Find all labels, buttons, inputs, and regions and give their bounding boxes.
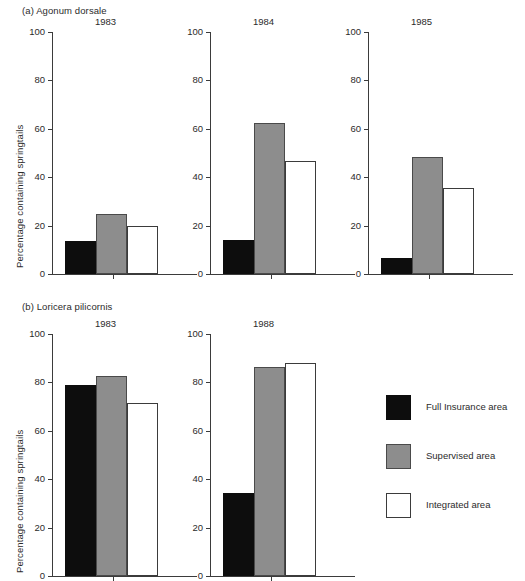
panel-a-1983: 1983 100 80 60 40 20 0 bbox=[14, 16, 197, 278]
panel-b-1988: 1988 100 80 60 40 20 0 bbox=[172, 318, 355, 580]
y-tick-label: 20 bbox=[192, 522, 203, 533]
legend-label: Integrated area bbox=[426, 499, 490, 510]
y-tick-0: 0 bbox=[206, 274, 210, 275]
y-tick-label: 80 bbox=[350, 74, 361, 85]
y-tick-label: 40 bbox=[192, 473, 203, 484]
panel-a-1985: 1985 100 80 60 40 20 0 bbox=[330, 16, 513, 278]
panel-a-1984: 1984 100 80 60 40 20 0 bbox=[172, 16, 355, 278]
group-caption-a: (a) Agonum dorsale bbox=[22, 5, 107, 16]
bar-integrated bbox=[127, 226, 158, 274]
y-axis-line bbox=[210, 334, 211, 576]
bar-supervised bbox=[254, 367, 285, 576]
y-tick-60: 60 bbox=[48, 129, 52, 130]
x-axis-tick-mid bbox=[113, 274, 114, 279]
y-tick-80: 80 bbox=[48, 382, 52, 383]
bar-supervised bbox=[96, 214, 127, 275]
y-tick-80: 80 bbox=[364, 80, 368, 81]
legend-swatch-grey-icon bbox=[386, 444, 411, 469]
y-tick-0: 0 bbox=[48, 576, 52, 577]
y-tick-label: 60 bbox=[350, 123, 361, 134]
bar-supervised bbox=[96, 376, 127, 576]
x-axis-tick-mid bbox=[271, 576, 272, 581]
y-tick-label: 20 bbox=[34, 522, 45, 533]
y-tick-100: 100 bbox=[48, 334, 52, 335]
y-tick-label: 0 bbox=[198, 570, 203, 581]
y-tick-label: 20 bbox=[192, 220, 203, 231]
y-tick-0: 0 bbox=[364, 274, 368, 275]
x-axis-line bbox=[210, 576, 355, 577]
y-tick-20: 20 bbox=[364, 226, 368, 227]
y-tick-label: 100 bbox=[187, 26, 203, 37]
x-axis-tick-mid bbox=[429, 274, 430, 279]
y-tick-40: 40 bbox=[206, 177, 210, 178]
bar-full-insurance bbox=[65, 385, 96, 576]
y-tick-label: 20 bbox=[34, 220, 45, 231]
y-tick-label: 0 bbox=[40, 268, 45, 279]
y-tick-0: 0 bbox=[206, 576, 210, 577]
plot-area: 100 80 60 40 20 0 bbox=[210, 334, 341, 576]
y-tick-label: 0 bbox=[356, 268, 361, 279]
y-tick-80: 80 bbox=[206, 80, 210, 81]
legend-swatch-black-icon bbox=[386, 395, 411, 420]
y-tick-label: 100 bbox=[187, 328, 203, 339]
y-tick-label: 60 bbox=[192, 425, 203, 436]
y-tick-40: 40 bbox=[206, 479, 210, 480]
plot-area: 100 80 60 40 20 0 bbox=[52, 32, 183, 274]
y-axis-line bbox=[52, 32, 53, 274]
y-tick-60: 60 bbox=[364, 129, 368, 130]
y-tick-label: 100 bbox=[345, 26, 361, 37]
bar-full-insurance bbox=[381, 258, 412, 274]
bar-integrated bbox=[285, 161, 316, 274]
group-caption-b: (b) Loricera pilicornis bbox=[22, 301, 112, 312]
plot-area: 100 80 60 40 20 0 bbox=[368, 32, 499, 274]
plot-area: 100 80 60 40 20 0 bbox=[210, 32, 341, 274]
y-tick-40: 40 bbox=[364, 177, 368, 178]
y-tick-label: 0 bbox=[40, 570, 45, 581]
y-tick-20: 20 bbox=[48, 226, 52, 227]
x-axis-tick-mid bbox=[113, 576, 114, 581]
y-axis-line bbox=[210, 32, 211, 274]
legend-swatch-white-icon bbox=[386, 493, 411, 518]
y-tick-label: 100 bbox=[29, 26, 45, 37]
y-tick-20: 20 bbox=[206, 528, 210, 529]
y-tick-label: 80 bbox=[34, 376, 45, 387]
y-tick-label: 80 bbox=[34, 74, 45, 85]
bar-full-insurance bbox=[223, 240, 254, 274]
panel-b-1983: 1983 100 80 60 40 20 0 bbox=[14, 318, 197, 580]
bar-full-insurance bbox=[223, 493, 254, 576]
y-tick-label: 40 bbox=[192, 171, 203, 182]
legend-label: Supervised area bbox=[426, 450, 495, 461]
y-axis-line bbox=[368, 32, 369, 274]
y-tick-label: 80 bbox=[192, 376, 203, 387]
y-tick-60: 60 bbox=[48, 431, 52, 432]
bar-integrated bbox=[443, 188, 474, 274]
y-tick-label: 60 bbox=[34, 425, 45, 436]
y-tick-label: 40 bbox=[34, 171, 45, 182]
bar-full-insurance bbox=[65, 241, 96, 274]
y-tick-100: 100 bbox=[364, 32, 368, 33]
y-tick-80: 80 bbox=[206, 382, 210, 383]
bar-supervised bbox=[254, 123, 285, 274]
y-tick-40: 40 bbox=[48, 177, 52, 178]
bar-integrated bbox=[127, 403, 158, 576]
y-tick-0: 0 bbox=[48, 274, 52, 275]
legend-label: Full Insurance area bbox=[426, 401, 507, 412]
y-tick-label: 40 bbox=[34, 473, 45, 484]
y-tick-label: 40 bbox=[350, 171, 361, 182]
y-tick-60: 60 bbox=[206, 431, 210, 432]
y-tick-label: 80 bbox=[192, 74, 203, 85]
x-axis-line bbox=[368, 274, 513, 275]
y-tick-80: 80 bbox=[48, 80, 52, 81]
y-tick-100: 100 bbox=[48, 32, 52, 33]
plot-area: 100 80 60 40 20 0 bbox=[52, 334, 183, 576]
y-axis-line bbox=[52, 334, 53, 576]
y-tick-60: 60 bbox=[206, 129, 210, 130]
y-tick-100: 100 bbox=[206, 334, 210, 335]
y-tick-100: 100 bbox=[206, 32, 210, 33]
y-tick-label: 100 bbox=[29, 328, 45, 339]
y-tick-40: 40 bbox=[48, 479, 52, 480]
x-axis-tick-mid bbox=[271, 274, 272, 279]
bar-integrated bbox=[285, 363, 316, 576]
y-tick-label: 0 bbox=[198, 268, 203, 279]
